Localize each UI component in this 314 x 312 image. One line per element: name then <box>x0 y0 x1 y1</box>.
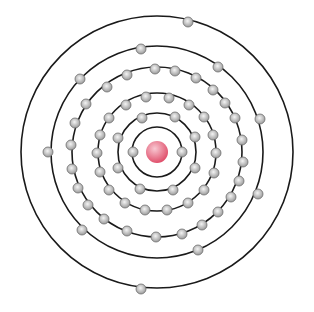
electron <box>197 220 207 230</box>
electron <box>255 114 265 124</box>
electron <box>213 207 223 217</box>
electron <box>67 164 77 174</box>
electron <box>136 44 146 54</box>
electron <box>104 185 114 195</box>
electron <box>136 284 146 294</box>
electron <box>213 62 223 72</box>
electron <box>220 98 230 108</box>
electron <box>170 112 180 122</box>
electron <box>121 100 131 110</box>
electron <box>168 185 178 195</box>
electron <box>66 140 76 150</box>
electron <box>150 64 160 74</box>
electron <box>77 225 87 235</box>
electron <box>237 135 247 145</box>
electron <box>170 66 180 76</box>
electron <box>199 185 209 195</box>
electron <box>208 85 218 95</box>
electron <box>128 147 138 157</box>
electron <box>191 73 201 83</box>
electron <box>73 183 83 193</box>
nucleus <box>146 141 168 163</box>
atom-diagram <box>0 0 314 312</box>
electron <box>151 232 161 242</box>
electron <box>70 118 80 128</box>
electron <box>162 205 172 215</box>
electron <box>141 92 151 102</box>
electron <box>209 168 219 178</box>
atom-svg <box>0 0 314 312</box>
electron <box>183 17 193 27</box>
electron <box>83 200 93 210</box>
electron <box>75 74 85 84</box>
electron <box>177 147 187 157</box>
electron <box>95 167 105 177</box>
electron <box>140 205 150 215</box>
electron <box>193 245 203 255</box>
electron <box>208 130 218 140</box>
electron <box>102 82 112 92</box>
electron <box>43 147 53 157</box>
electron <box>183 198 193 208</box>
electron <box>122 226 132 236</box>
electron <box>113 133 123 143</box>
electron <box>211 148 221 158</box>
electron <box>95 130 105 140</box>
electron <box>81 99 91 109</box>
electron <box>135 184 145 194</box>
electron <box>184 100 194 110</box>
electron <box>92 148 102 158</box>
electron <box>238 157 248 167</box>
electron <box>190 132 200 142</box>
electron <box>137 113 147 123</box>
electron <box>199 112 209 122</box>
electron <box>226 192 236 202</box>
electron <box>164 93 174 103</box>
electron <box>104 113 114 123</box>
electron <box>190 163 200 173</box>
electron <box>230 113 240 123</box>
electron <box>99 214 109 224</box>
electron <box>120 198 130 208</box>
electron <box>177 229 187 239</box>
electron <box>113 163 123 173</box>
electron <box>122 70 132 80</box>
electron <box>253 189 263 199</box>
electron <box>234 176 244 186</box>
